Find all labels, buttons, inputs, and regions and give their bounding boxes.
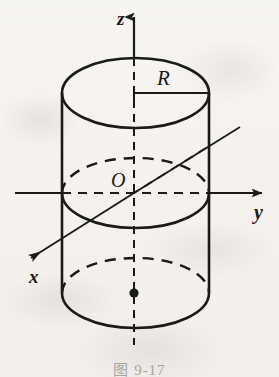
radius-label: R: [156, 66, 170, 90]
figure-container: z y x O R 图 9-17: [0, 0, 279, 377]
z-axis-label: z: [116, 8, 125, 29]
figure-caption: 图 9-17: [0, 358, 279, 377]
radius-segment: [133, 93, 210, 101]
origin-label: O: [111, 169, 125, 191]
axis-point-marker: [129, 288, 138, 297]
x-axis-label: x: [28, 266, 39, 287]
cylinder-diagram: z y x O R: [0, 0, 279, 377]
y-axis-label: y: [252, 201, 263, 224]
